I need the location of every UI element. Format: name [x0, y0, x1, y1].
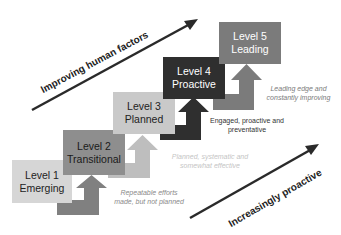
level-5-name: Leading: [231, 43, 268, 56]
level-4-description: Engaged, proactive and preventative: [202, 116, 292, 134]
level-4-name: Proactive: [172, 78, 216, 91]
level-3-description: Planned, systematic and somewhat effecti…: [160, 152, 260, 170]
level-5-description: Leading edge and constantly improving: [256, 84, 341, 102]
maturity-diagram: Level 1 Emerging Level 2 Transitional Le…: [0, 0, 341, 235]
level-5-title: Level 5: [233, 30, 267, 43]
level-1-name: Emerging: [20, 182, 65, 195]
level-4-box: Level 4 Proactive: [163, 57, 225, 99]
level-1-title: Level 1: [25, 169, 59, 182]
level-4-title: Level 4: [177, 65, 211, 78]
level-3-name: Planned: [125, 113, 164, 126]
level-3-title: Level 3: [127, 100, 161, 113]
level-2-name: Transitional: [67, 153, 121, 166]
level-2-title: Level 2: [77, 140, 111, 153]
level-5-box: Level 5 Leading: [219, 22, 281, 64]
level-2-box: Level 2 Transitional: [63, 130, 125, 175]
level-2-description: Repeatable efforts made, but not planned: [104, 188, 194, 206]
